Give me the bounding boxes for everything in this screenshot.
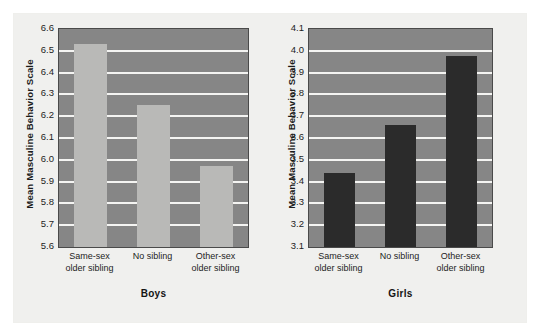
x-tick-label-line: older sibling <box>184 263 247 275</box>
x-tick-label-line: No sibling <box>369 251 430 263</box>
x-tick-label-line: older sibling <box>58 263 121 275</box>
x-tick-label: Other-sexolder sibling <box>184 251 247 274</box>
x-tick-label-line: No sibling <box>121 251 184 263</box>
x-tick-label-line: Other-sex <box>430 251 491 263</box>
plot-area-boys <box>58 28 249 248</box>
x-tick-label-line: Same-sex <box>308 251 369 263</box>
bar <box>385 125 417 247</box>
x-tick-label-line: Other-sex <box>184 251 247 263</box>
y-tick-label: 3.7 <box>278 110 304 120</box>
x-tick-label-line: older sibling <box>308 263 369 275</box>
panel-caption-boys: Boys <box>58 288 249 299</box>
y-tick-label: 6.1 <box>28 132 54 142</box>
bar <box>200 166 233 247</box>
y-tick-label: 3.6 <box>278 132 304 142</box>
y-tick-label: 6.2 <box>28 110 54 120</box>
y-tick-label: 6.3 <box>28 88 54 98</box>
bar <box>446 56 478 247</box>
bar <box>74 44 107 247</box>
y-tick-label: 3.3 <box>278 197 304 207</box>
plot-area-girls <box>308 28 493 248</box>
x-tick-label-line: Same-sex <box>58 251 121 263</box>
y-tick-label: 6.0 <box>28 154 54 164</box>
y-tick-label: 4.0 <box>278 45 304 55</box>
y-tick-label: 4.1 <box>278 23 304 33</box>
y-tick-label: 3.9 <box>278 67 304 77</box>
x-tick-label: No sibling <box>121 251 184 263</box>
figure-root: Mean Masculine Behavior Scale 6.66.56.46… <box>0 0 540 336</box>
y-tick-label: 3.5 <box>278 154 304 164</box>
x-tick-label: Same-sexolder sibling <box>58 251 121 274</box>
y-tick-label: 3.8 <box>278 88 304 98</box>
y-tick-label: 3.4 <box>278 176 304 186</box>
y-tick-label: 5.9 <box>28 176 54 186</box>
y-tick-label: 6.6 <box>28 23 54 33</box>
bar <box>324 173 356 247</box>
y-tick-label: 6.4 <box>28 67 54 77</box>
x-tick-label: No sibling <box>369 251 430 263</box>
y-tick-label: 5.7 <box>28 219 54 229</box>
panel-boys: Mean Masculine Behavior Scale 6.66.56.46… <box>0 0 262 308</box>
gridline <box>309 50 492 52</box>
y-tick-label: 6.5 <box>28 45 54 55</box>
x-tick-label: Other-sexolder sibling <box>430 251 491 274</box>
bar <box>137 105 170 247</box>
y-tick-label: 3.2 <box>278 219 304 229</box>
y-tick-label: 3.1 <box>278 241 304 251</box>
panel-caption-girls: Girls <box>308 288 493 299</box>
panel-girls: Mean Masculine Behavior Scale 4.14.03.93… <box>262 0 512 308</box>
y-tick-label: 5.6 <box>28 241 54 251</box>
y-tick-label: 5.8 <box>28 197 54 207</box>
x-tick-label-line: older sibling <box>430 263 491 275</box>
x-tick-label: Same-sexolder sibling <box>308 251 369 274</box>
